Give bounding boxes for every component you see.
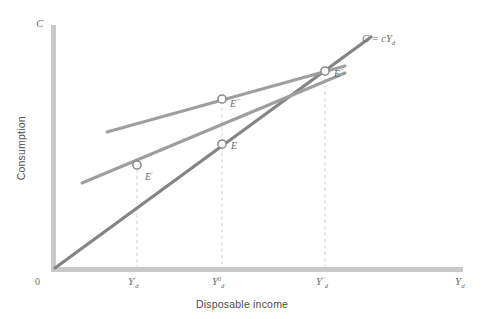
point-label-e-double-prime-superscript: ′′: [340, 67, 343, 74]
consumption-function-figure: Consumption Disposable income C Yd 0 Y′d…: [0, 0, 489, 319]
annotation-line-equation-base: C = cY: [362, 33, 392, 44]
x-tick-label-yd-double-prime: Y′′d: [316, 277, 328, 288]
x-tick-3-superscript: ′′: [322, 275, 325, 282]
x-tick-3-subscript: d: [325, 282, 328, 289]
annotation-line-equation: C = cYd: [362, 34, 395, 45]
point-label-e-triple-prime: E′′′: [230, 99, 240, 109]
marker-point-e-prime: [133, 161, 141, 169]
point-label-e-prime: E′: [145, 172, 152, 182]
marker-point-e-triple-prime: [218, 95, 226, 103]
point-label-e-double-prime: E′′: [334, 69, 343, 79]
x-axis-title: Disposable income: [196, 299, 288, 310]
y-axis-symbol-text: C: [36, 17, 43, 29]
x-tick-1-subscript: d: [135, 282, 138, 289]
y-axis-title: Consumption: [16, 93, 27, 203]
x-axis-symbol-label: Yd: [455, 276, 465, 287]
point-label-e-triple-prime-superscript: ′′′: [236, 97, 240, 104]
x-axis-symbol-subscript: d: [461, 282, 464, 289]
x-tick-label-yd-prime: Y′d: [128, 277, 139, 288]
marker-point-e-double-prime: [321, 67, 329, 75]
x-tick-2-subscript: d: [221, 282, 224, 289]
marker-point-e: [218, 140, 226, 148]
origin-label: 0: [35, 277, 40, 287]
chart-canvas: [0, 0, 489, 319]
point-label-e-base: E: [231, 140, 237, 151]
point-label-e: E: [231, 141, 237, 151]
x-tick-1-superscript: ′: [134, 275, 135, 282]
point-label-e-prime-superscript: ′: [151, 170, 152, 177]
x-tick-label-yd-zero: Y0d: [212, 277, 224, 288]
x-tick-2-superscript: 0: [218, 275, 221, 282]
annotation-line-equation-subscript: d: [392, 39, 395, 46]
y-axis-symbol-label: C: [36, 18, 43, 29]
